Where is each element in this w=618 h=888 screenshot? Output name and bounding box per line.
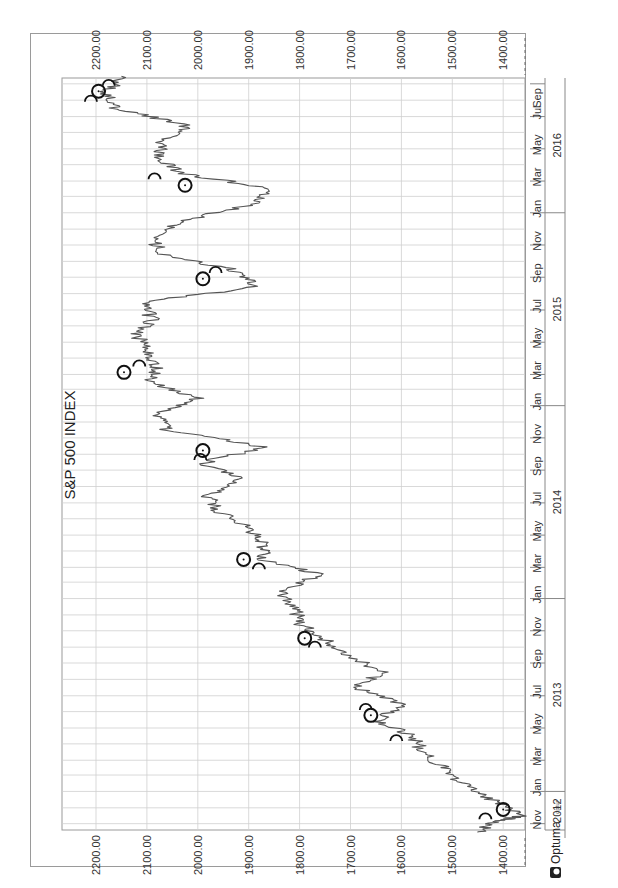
month-tick-label: Sep — [531, 88, 543, 108]
full-moon-icon — [364, 709, 377, 722]
full-moon-icon — [117, 366, 130, 379]
month-tick-label: Nov — [531, 809, 543, 829]
month-tick-label: Mar — [531, 554, 543, 573]
month-tick-label: Jan — [531, 779, 543, 797]
price-tick-label-top: 1500.00 — [446, 30, 458, 70]
crescent-moon-icon — [149, 173, 161, 179]
month-tick-label: Sep — [531, 649, 543, 669]
price-tick-label-top: 2200.00 — [90, 30, 102, 70]
month-tick-label: Jul — [531, 299, 543, 313]
full-moon-icon — [298, 632, 311, 645]
price-tick-label-bottom: 2100.00 — [141, 835, 153, 875]
month-tick-label: Sep — [531, 456, 543, 476]
sp500-chart: 2200.002200.002100.002100.002000.002000.… — [0, 0, 618, 888]
optuma-logo: Optuma optuma.com — [548, 800, 608, 880]
price-tick-label-top: 1700.00 — [345, 30, 357, 70]
month-tick-label: Jan — [531, 200, 543, 218]
crescent-moon-icon — [85, 96, 97, 102]
price-tick-label-top: 2000.00 — [192, 30, 204, 70]
price-tick-label-bottom: 2200.00 — [90, 835, 102, 875]
price-tick-label-top: 1600.00 — [395, 30, 407, 70]
price-tick-label-bottom: 1500.00 — [446, 835, 458, 875]
price-tick-label-top: 1900.00 — [243, 30, 255, 70]
month-tick-label: Jan — [531, 393, 543, 411]
price-tick-label-bottom: 1800.00 — [294, 835, 306, 875]
crescent-moon-icon — [253, 563, 265, 569]
brand-website: optuma.com — [554, 800, 560, 814]
crescent-moon-icon — [309, 642, 321, 648]
full-moon-icon — [237, 553, 250, 566]
month-tick-label: Sep — [531, 263, 543, 283]
month-tick-label: Jul — [531, 685, 543, 699]
month-tick-label: May — [531, 713, 543, 734]
month-tick-label: May — [531, 134, 543, 155]
year-label: 2013 — [551, 683, 563, 707]
crescent-moon-icon — [390, 735, 402, 741]
month-tick-label: Nov — [531, 231, 543, 251]
price-tick-label-bottom: 2000.00 — [192, 835, 204, 875]
price-tick-label-bottom: 1900.00 — [243, 835, 255, 875]
month-tick-label: May — [531, 327, 543, 348]
crescent-moon-icon — [103, 80, 115, 86]
month-tick-label: Jan — [531, 586, 543, 604]
brand-name: Optuma — [549, 821, 563, 864]
price-tick-label-bottom: 1600.00 — [395, 835, 407, 875]
price-tick-label-bottom: 1700.00 — [345, 835, 357, 875]
price-tick-label-bottom: 1400.00 — [497, 835, 509, 875]
month-tick-label: Mar — [531, 167, 543, 186]
moon-markers — [85, 80, 510, 820]
month-tick-label: Nov — [531, 424, 543, 444]
crescent-moon-icon — [133, 360, 145, 366]
month-tick-label: Nov — [531, 616, 543, 636]
price-tick-label-top: 1400.00 — [497, 30, 509, 70]
year-label: 2015 — [551, 297, 563, 321]
year-label: 2016 — [551, 133, 563, 157]
month-tick-label: May — [531, 520, 543, 541]
month-tick-label: Jul — [531, 492, 543, 506]
year-label: 2014 — [551, 490, 563, 514]
month-tick-label: Mar — [531, 361, 543, 380]
chart-title: S&P 500 INDEX — [61, 391, 78, 500]
month-tick-label: Mar — [531, 746, 543, 765]
grid-lines — [62, 78, 525, 830]
price-tick-label-top: 2100.00 — [141, 30, 153, 70]
crescent-moon-icon — [479, 813, 491, 819]
crescent-moon-icon — [210, 267, 222, 273]
price-tick-label-top: 1800.00 — [294, 30, 306, 70]
full-moon-icon — [196, 272, 209, 285]
